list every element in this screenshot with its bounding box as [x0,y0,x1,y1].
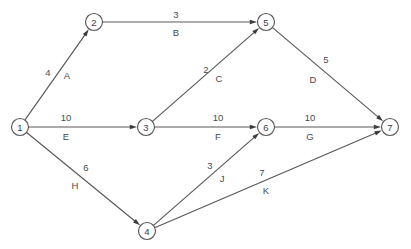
node-7[interactable]: 7 [382,119,399,136]
node-1[interactable]: 1 [12,119,29,136]
edge-activity-G: G [306,131,313,142]
edge-activity-H: H [72,180,79,191]
edge-line-J [154,136,256,225]
edges-layer [25,20,383,228]
network-diagram: 1234567 4A3B2C5D10E10F10G6H3J7K [0,0,411,249]
node-5[interactable]: 5 [258,14,275,31]
node-label-4: 4 [144,226,149,237]
edge-duration-A: 4 [45,67,50,78]
edge-activity-E: E [63,131,69,142]
node-label-6: 6 [263,122,268,133]
node-3[interactable]: 3 [138,119,155,136]
edge-line-A [25,34,86,120]
edge-activity-A: A [64,70,71,81]
edge-activity-F: F [215,131,221,142]
edge-A [25,29,89,119]
edge-line-K [155,133,377,228]
edge-E [29,125,137,129]
arrowhead-G [374,125,381,129]
edge-duration-K: 7 [259,167,264,178]
node-label-5: 5 [263,17,268,28]
arrowhead-E [130,125,137,129]
edge-activity-D: D [310,74,317,85]
node-label-7: 7 [387,122,392,133]
node-6[interactable]: 6 [258,119,275,136]
edge-line-D [273,28,379,118]
network-diagram-canvas: 1234567 4A3B2C5D10E10F10G6H3J7K [0,0,411,249]
arrowhead-F [250,125,257,129]
edge-activity-B: B [173,27,179,38]
node-label-1: 1 [17,122,22,133]
arrowhead-B [250,20,257,24]
edge-duration-H: 6 [83,162,88,173]
edge-K [155,131,381,228]
edge-F [155,125,257,129]
edge-duration-E: 10 [61,112,72,123]
edge-activity-K: K [263,185,270,196]
edge-duration-C: 2 [203,64,208,75]
edge-C [153,28,259,121]
edge-J [154,133,259,225]
edge-activity-C: C [216,73,223,84]
edge-duration-F: 10 [213,112,224,123]
edge-labels-layer: 4A3B2C5D10E10F10G6H3J7K [45,9,328,196]
edge-D [273,28,383,121]
edge-B [103,20,257,24]
node-label-2: 2 [91,17,96,28]
arrowhead-K [374,131,381,136]
edge-H [27,133,140,226]
node-4[interactable]: 4 [139,223,156,240]
edge-G [275,125,381,129]
arrowhead-A [83,29,89,36]
node-label-3: 3 [143,122,148,133]
node-2[interactable]: 2 [86,14,103,31]
edge-duration-D: 5 [323,54,328,65]
edge-line-C [153,31,256,121]
edge-line-H [27,133,136,222]
edge-duration-G: 10 [305,112,316,123]
edge-duration-J: 3 [207,160,212,171]
edge-activity-J: J [220,173,225,184]
edge-duration-B: 3 [173,9,178,20]
